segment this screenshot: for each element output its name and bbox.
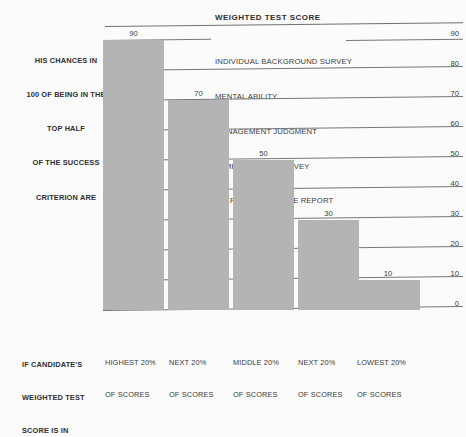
y-tick-label: 0 (437, 299, 459, 308)
y-tick-label: 20 (437, 239, 459, 248)
y-tick-label: 40 (437, 179, 459, 188)
gridline-90-right (346, 39, 463, 41)
bar-value-label: 90 (103, 29, 164, 38)
y-tick-label: 30 (437, 209, 459, 218)
bar-lowest-20 (356, 280, 420, 310)
category-label-line-1: HIGHEST 20% (105, 358, 156, 369)
bar-value-label: 10 (356, 269, 420, 278)
y-tick-label: 70 (437, 89, 459, 98)
category-label-line-2: OF SCORES (233, 390, 279, 401)
y-tick-label: 10 (437, 269, 459, 278)
y-tick-label: 60 (437, 119, 459, 128)
category-label-highest-20: HIGHEST 20% OF SCORES (105, 337, 156, 422)
x-axis-caption-line-3: SCORE IS IN (22, 425, 122, 436)
category-label-line-1: LOWEST 20% (357, 358, 406, 369)
bar-next-20-upper (168, 100, 229, 310)
y-tick-label: 50 (437, 149, 459, 158)
category-label-line-2: OF SCORES (357, 390, 406, 401)
bar-value-label: 50 (233, 149, 294, 158)
category-label-line-2: OF SCORES (169, 390, 214, 401)
bar-middle-20 (233, 160, 294, 310)
category-label-line-2: OF SCORES (298, 390, 343, 401)
category-label-lowest-20: LOWEST 20% OF SCORES (357, 337, 406, 422)
category-label-next-20-upper: NEXT 20% OF SCORES (169, 337, 214, 422)
bar-highest-20 (103, 40, 164, 310)
category-label-next-20-lower: NEXT 20% OF SCORES (298, 337, 343, 422)
y-tick-label: 80 (437, 59, 459, 68)
category-label-line-1: MIDDLE 20% (233, 358, 279, 369)
plot-area: 90 70 50 30 10 90 80 70 60 50 40 30 20 1… (103, 40, 463, 321)
bar-next-20-lower (298, 220, 359, 310)
title-underline (105, 22, 463, 27)
bar-value-label: 30 (298, 209, 359, 218)
category-label-line-1: NEXT 20% (298, 358, 343, 369)
category-label-line-1: NEXT 20% (169, 358, 214, 369)
category-label-line-2: OF SCORES (105, 390, 156, 401)
category-label-middle-20: MIDDLE 20% OF SCORES (233, 337, 279, 422)
chart-title: WEIGHTED TEST SCORE (215, 13, 321, 22)
y-tick-label: 90 (437, 29, 459, 38)
bar-value-label: 70 (168, 89, 229, 98)
